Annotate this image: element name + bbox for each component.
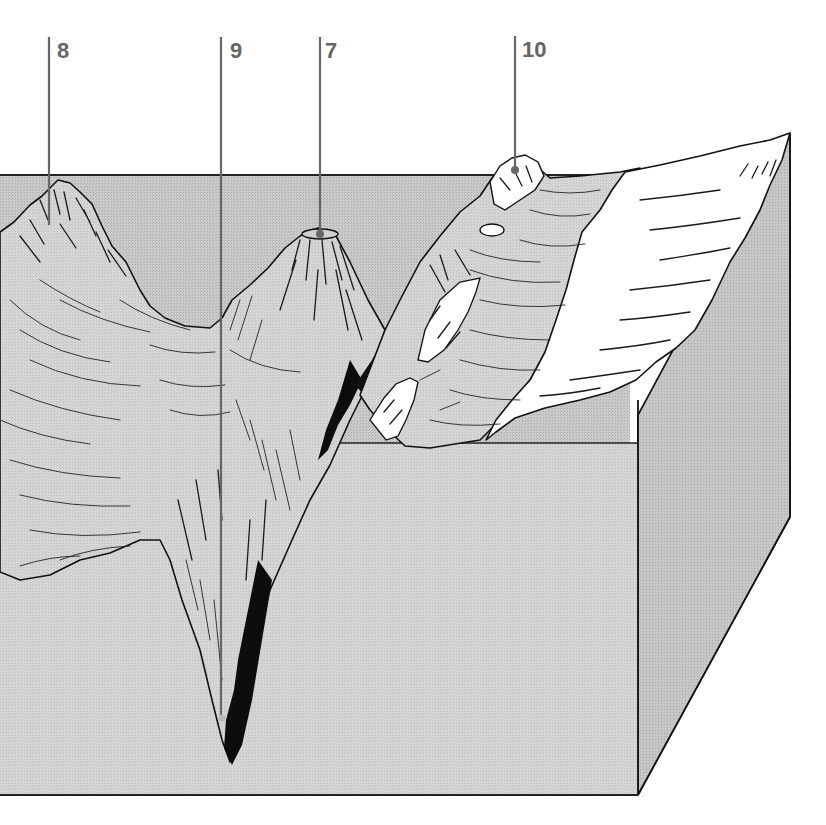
callout-label-8: 8 xyxy=(57,40,69,62)
callout-dot-9 xyxy=(219,715,226,722)
callout-dot-7 xyxy=(316,230,324,238)
callout-label-7: 7 xyxy=(325,40,337,62)
ocean-floor-block-diagram xyxy=(0,0,826,825)
callout-dot-10 xyxy=(511,166,519,174)
islet-small xyxy=(480,224,504,236)
callout-label-9: 9 xyxy=(230,40,242,62)
callout-label-10: 10 xyxy=(522,39,546,61)
